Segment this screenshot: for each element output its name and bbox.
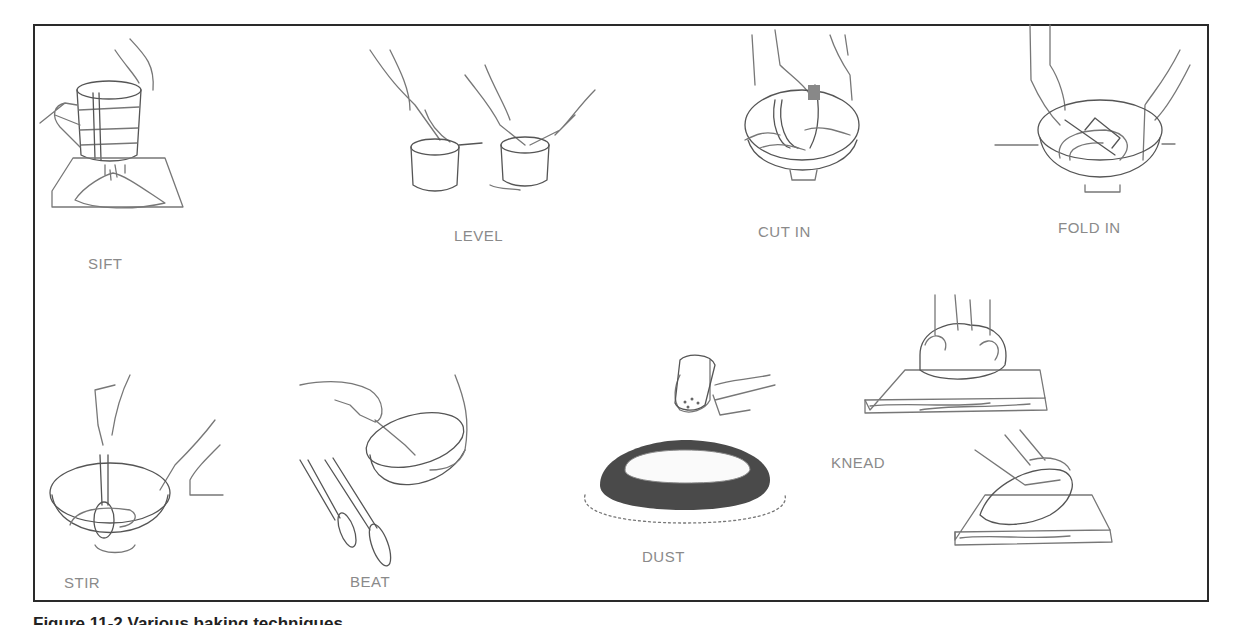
- panel-level: LEVEL: [370, 50, 610, 250]
- label-dust: DUST: [642, 548, 685, 565]
- label-knead: KNEAD: [831, 454, 885, 471]
- figure-caption: Figure 11-2 Various baking techniques: [33, 613, 343, 625]
- spatula-bowl-illustration-icon: [995, 20, 1195, 190]
- whisk-bowl-illustration-icon: [295, 370, 495, 550]
- measuring-cups-illustration-icon: [370, 50, 610, 200]
- panel-beat: BEAT: [295, 370, 495, 600]
- panel-knead: KNEAD: [830, 290, 1120, 555]
- shaker-cake-pan-illustration-icon: [570, 355, 800, 525]
- panel-cut-in: CUT IN: [720, 30, 890, 250]
- label-beat: BEAT: [350, 573, 390, 590]
- label-fold-in: FOLD IN: [1058, 219, 1121, 236]
- panel-sift: SIFT: [35, 35, 185, 225]
- pastry-blender-illustration-icon: [720, 30, 890, 190]
- label-level: LEVEL: [454, 227, 503, 244]
- label-sift: SIFT: [88, 255, 123, 272]
- sifter-illustration-icon: [35, 35, 185, 225]
- kneading-board-illustration-icon: [830, 290, 1120, 555]
- panel-stir: STIR: [40, 355, 240, 595]
- panel-fold-in: FOLD IN: [995, 20, 1195, 240]
- panel-dust: DUST: [570, 355, 800, 595]
- label-cut-in: CUT IN: [758, 223, 811, 240]
- label-stir: STIR: [64, 574, 100, 591]
- spoon-bowl-illustration-icon: [40, 355, 240, 555]
